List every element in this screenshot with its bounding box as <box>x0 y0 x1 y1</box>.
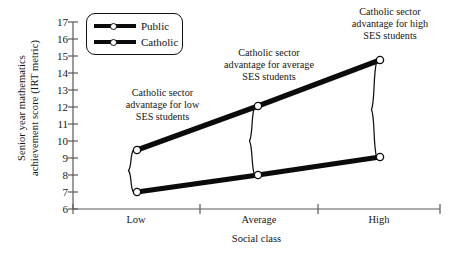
series-public-point-average <box>254 171 261 178</box>
x-tick-label-high: High <box>369 214 390 225</box>
chart-legend: Public Catholic <box>86 13 183 55</box>
series-catholic-point-low <box>133 146 140 153</box>
legend-label-catholic: Catholic <box>141 37 178 48</box>
series-public-point-low <box>133 188 140 195</box>
annotation-low-line2: advantage for low <box>100 99 225 111</box>
annotation-average-line2: advantage for average <box>203 59 335 71</box>
legend-marker-public-icon <box>94 21 136 32</box>
annotation-average-line1: Catholic sector <box>203 47 335 59</box>
annotation-high-line1: Catholic sector <box>325 6 455 18</box>
legend-item-public: Public <box>94 18 169 34</box>
chart-figure: Senior year mathematics achievement scor… <box>0 0 466 256</box>
series-public <box>133 153 383 195</box>
annotation-low: Catholic sector advantage for low SES st… <box>100 87 225 124</box>
series-catholic-point-average <box>254 102 261 109</box>
annotation-low-line1: Catholic sector <box>100 87 225 99</box>
annotation-average: Catholic sector advantage for average SE… <box>203 47 335 84</box>
brace-high <box>372 62 377 157</box>
brace-average <box>250 107 255 175</box>
annotation-low-line3: SES students <box>100 111 225 123</box>
x-tick-label-low: Low <box>126 214 145 225</box>
annotation-high-line2: advantage for high <box>325 18 455 30</box>
legend-marker-catholic-icon <box>94 37 136 48</box>
x-tick-label-average: Average <box>242 214 277 225</box>
brace-low <box>129 150 134 192</box>
annotation-average-line3: SES students <box>203 71 335 83</box>
legend-item-catholic: Catholic <box>94 34 178 50</box>
annotation-high-line3: SES students <box>325 30 455 42</box>
series-catholic-point-high <box>376 56 383 63</box>
legend-label-public: Public <box>141 21 169 32</box>
x-axis-title: Social class <box>73 233 440 244</box>
annotation-high: Catholic sector advantage for high SES s… <box>325 6 455 43</box>
series-public-point-high <box>376 153 383 160</box>
